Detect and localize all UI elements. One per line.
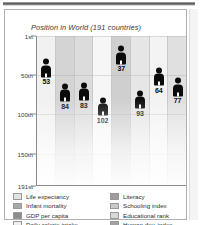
gridline-100 xyxy=(37,114,186,115)
figure-panel: Position in World (191 countries) 538483… xyxy=(4,9,187,220)
top-divider-shadow xyxy=(3,5,195,6)
legend-label: Educational rank xyxy=(123,211,169,220)
legend-item-schooling-index: Schooling index xyxy=(110,201,172,210)
person-body-icon xyxy=(60,90,70,102)
column-band-infant-mortality xyxy=(56,36,75,185)
person-head-icon xyxy=(81,82,87,88)
column-band-human-dev-index xyxy=(168,36,186,185)
legend-column-left: Life expectancyInfant mortalityGDP per c… xyxy=(13,192,78,225)
value-label-literacy: 37 xyxy=(117,65,125,72)
value-label-educational-rank: 64 xyxy=(155,87,163,94)
value-label-infant-mortality: 84 xyxy=(61,103,69,110)
y-axis-tick-mark-50th xyxy=(31,74,36,75)
value-label-human-dev-index: 77 xyxy=(174,97,182,104)
legend-label: Schooling index xyxy=(123,201,167,210)
legend-column-right: LiteracySchooling indexEducational rankH… xyxy=(110,192,172,225)
legend-label: GDP per capita xyxy=(26,211,68,220)
legend-swatch-icon xyxy=(13,203,22,210)
legend-label: Daily calorie intake xyxy=(26,220,78,225)
person-body-icon xyxy=(135,97,145,109)
y-axis-tick-mark-191st xyxy=(31,186,36,187)
legend-swatch-icon xyxy=(13,221,22,225)
person-icon xyxy=(41,59,51,78)
person-body-icon xyxy=(173,84,183,96)
legend-item-infant-mortality: Infant mortality xyxy=(13,201,78,210)
person-icon xyxy=(135,90,145,109)
legend-label: Life expectancy xyxy=(26,192,69,201)
plot-area: 53848310237936477 xyxy=(36,36,186,186)
value-label-daily-calorie-intake: 102 xyxy=(97,117,109,124)
column-band-gdp-per-capita xyxy=(75,36,94,185)
legend-swatch-icon xyxy=(13,212,22,219)
chart-legend: Life expectancyInfant mortalityGDP per c… xyxy=(13,192,188,225)
person-icon xyxy=(116,46,126,65)
person-head-icon xyxy=(156,67,162,73)
legend-item-literacy: Literacy xyxy=(110,192,172,201)
legend-swatch-icon xyxy=(110,212,119,219)
gridline-1 xyxy=(37,36,186,37)
person-icon xyxy=(98,97,108,116)
person-icon xyxy=(154,67,164,86)
person-body-icon xyxy=(116,52,126,64)
value-label-gdp-per-capita: 83 xyxy=(80,102,88,109)
person-body-icon xyxy=(154,74,164,86)
person-body-icon xyxy=(41,65,51,77)
person-body-icon xyxy=(79,89,89,101)
chart-title: Position in World (191 countries) xyxy=(31,23,141,32)
person-head-icon xyxy=(137,90,143,96)
legend-label: Human dev. index xyxy=(123,220,172,225)
person-head-icon xyxy=(62,83,68,89)
person-icon xyxy=(173,78,183,97)
person-body-icon xyxy=(98,104,108,116)
y-axis-tick-mark-100th xyxy=(31,114,36,115)
legend-item-human-dev-index: Human dev. index xyxy=(110,220,172,225)
person-head-icon xyxy=(43,59,49,65)
y-axis-tick-mark-1st xyxy=(31,36,36,37)
legend-label: Literacy xyxy=(123,192,145,201)
person-head-icon xyxy=(175,78,181,84)
column-band-educational-rank xyxy=(150,36,169,185)
y-axis-tick-mark-150th xyxy=(31,153,36,154)
legend-label: Infant mortality xyxy=(26,201,67,210)
legend-swatch-icon xyxy=(13,193,22,200)
document-page: Position in World (191 countries) 538483… xyxy=(0,0,201,225)
person-head-icon xyxy=(118,46,124,52)
gridline-150 xyxy=(37,154,186,155)
legend-item-daily-calorie-intake: Daily calorie intake xyxy=(13,220,78,225)
legend-item-gdp-per-capita: GDP per capita xyxy=(13,211,78,220)
person-icon xyxy=(79,82,89,101)
legend-item-educational-rank: Educational rank xyxy=(110,211,172,220)
person-icon xyxy=(60,83,70,102)
vertical-scrollbar-track[interactable] xyxy=(189,9,198,220)
value-label-life-expectancy: 53 xyxy=(42,78,50,85)
legend-item-life-expectancy: Life expectancy xyxy=(13,192,78,201)
legend-swatch-icon xyxy=(110,193,119,200)
legend-swatch-icon xyxy=(110,203,119,210)
value-label-schooling-index: 93 xyxy=(136,110,144,117)
person-head-icon xyxy=(100,97,106,103)
legend-swatch-icon xyxy=(110,221,119,225)
